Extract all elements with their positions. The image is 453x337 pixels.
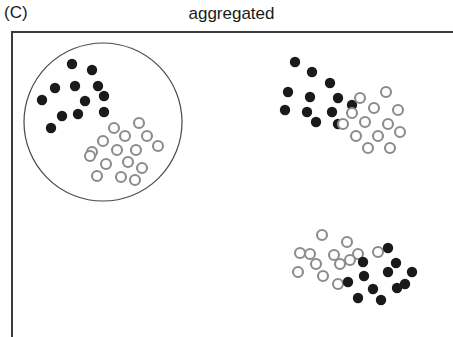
data-point-filled: [37, 95, 47, 105]
data-point-filled: [67, 59, 77, 69]
data-point-open: [369, 103, 379, 113]
data-point-open: [345, 255, 355, 265]
data-point-open: [342, 237, 352, 247]
data-point-open: [333, 279, 343, 289]
data-point-open: [395, 127, 405, 137]
data-point-open: [385, 143, 395, 153]
data-point-filled: [359, 271, 369, 281]
data-point-open: [101, 159, 111, 169]
data-point-filled: [302, 107, 312, 117]
data-point-open: [109, 123, 119, 133]
data-point-open: [363, 143, 373, 153]
data-point-filled: [327, 107, 337, 117]
data-point-open: [351, 131, 361, 141]
data-point-filled: [50, 83, 60, 93]
data-point-open: [130, 175, 140, 185]
data-point-open: [318, 271, 328, 281]
data-point-open: [355, 93, 365, 103]
data-point-filled: [93, 81, 103, 91]
data-point-filled: [57, 111, 67, 121]
sampling-circle: [24, 43, 182, 201]
data-point-open: [120, 131, 130, 141]
data-point-filled: [311, 117, 321, 127]
data-point-open: [311, 259, 321, 269]
data-point-filled: [383, 243, 393, 253]
data-points-group: [37, 57, 417, 305]
data-point-open: [295, 248, 305, 258]
data-point-open: [123, 157, 133, 167]
data-point-open: [373, 131, 383, 141]
data-point-open: [134, 118, 144, 128]
data-point-filled: [358, 257, 368, 267]
data-point-filled: [99, 91, 109, 101]
data-point-filled: [368, 284, 378, 294]
data-point-filled: [280, 105, 290, 115]
data-point-filled: [305, 92, 315, 102]
data-point-filled: [343, 277, 353, 287]
data-point-filled: [333, 93, 343, 103]
data-point-filled: [325, 78, 335, 88]
data-point-open: [373, 247, 383, 257]
data-point-filled: [376, 295, 386, 305]
data-point-open: [335, 259, 345, 269]
data-point-open: [383, 119, 393, 129]
data-point-open: [305, 249, 315, 259]
data-point-open: [153, 141, 163, 151]
data-point-open: [116, 172, 126, 182]
data-point-filled: [73, 109, 83, 119]
sampling-circle-annotation: [24, 43, 182, 201]
data-point-open: [293, 267, 303, 277]
data-point-filled: [99, 107, 109, 117]
data-point-filled: [391, 258, 401, 268]
scatter-plot-canvas: [0, 0, 453, 337]
data-point-open: [131, 145, 141, 155]
data-point-filled: [400, 279, 410, 289]
data-point-filled: [407, 267, 417, 277]
data-point-open: [381, 87, 391, 97]
data-point-filled: [80, 96, 90, 106]
data-point-filled: [383, 267, 393, 277]
data-point-open: [98, 136, 108, 146]
data-point-open: [393, 105, 403, 115]
data-point-open: [137, 163, 147, 173]
data-point-filled: [353, 293, 363, 303]
data-point-filled: [70, 81, 80, 91]
data-point-open: [112, 145, 122, 155]
data-point-filled: [307, 67, 317, 77]
data-point-open: [347, 108, 357, 118]
data-point-filled: [290, 57, 300, 67]
data-point-open: [317, 230, 327, 240]
data-point-open: [360, 117, 370, 127]
data-point-open: [338, 119, 348, 129]
data-point-open: [142, 131, 152, 141]
data-point-open: [85, 151, 95, 161]
data-point-filled: [283, 87, 293, 97]
figure-panel-c: (C) aggregated: [0, 0, 453, 337]
data-point-open: [92, 171, 102, 181]
data-point-filled: [46, 123, 56, 133]
data-point-filled: [87, 65, 97, 75]
